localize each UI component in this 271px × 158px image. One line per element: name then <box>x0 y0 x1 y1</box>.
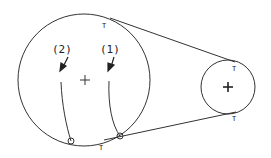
label-t-bottom-small: T <box>232 115 237 123</box>
label-t-top-large: T <box>102 22 107 30</box>
arrow-1-icon <box>108 57 114 71</box>
arrow-2-icon <box>60 57 68 71</box>
lower-belt-tangent <box>104 112 236 140</box>
path-1-curve <box>109 81 120 136</box>
label-t-bottom-large: T <box>99 144 104 152</box>
path-2-curve <box>61 82 71 141</box>
small-center-mark <box>223 82 233 92</box>
belt-pulley-diagram: (2) (1) T T T T <box>0 0 271 158</box>
label-path-1: (1) <box>100 43 120 56</box>
upper-belt-tangent <box>110 18 235 62</box>
label-t-top-small: T <box>232 65 237 73</box>
label-path-2: (2) <box>52 43 72 56</box>
